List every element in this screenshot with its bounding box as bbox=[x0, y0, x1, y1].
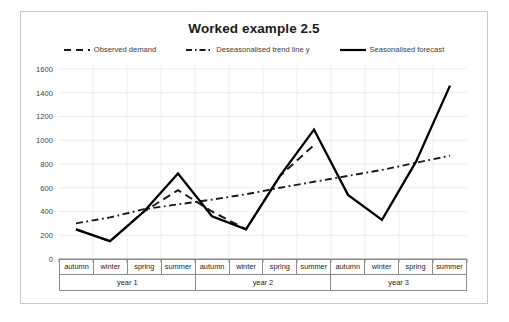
y-axis-tick-label: 200 bbox=[40, 231, 53, 240]
year-cell: year 1 bbox=[60, 275, 196, 291]
quarter-cell: spring bbox=[263, 260, 297, 275]
y-axis-tick-label: 800 bbox=[40, 160, 53, 169]
y-axis-tick-label: 0 bbox=[49, 255, 53, 264]
x-axis-category-table: autumnwinterspringsummerautumnwinterspri… bbox=[59, 259, 467, 291]
quarter-cell: spring bbox=[127, 260, 161, 275]
quarter-cell: summer bbox=[161, 260, 195, 275]
quarter-cell: summer bbox=[432, 260, 466, 275]
quarter-label-row: autumnwinterspringsummerautumnwinterspri… bbox=[60, 260, 467, 275]
quarter-cell: winter bbox=[229, 260, 263, 275]
year-cell: year 3 bbox=[331, 275, 467, 291]
chart-frame: Worked example 2.5 Observed demand Desea… bbox=[20, 11, 488, 304]
y-axis-tick-label: 1200 bbox=[36, 112, 53, 121]
quarter-cell: autumn bbox=[195, 260, 229, 275]
quarter-cell: summer bbox=[297, 260, 331, 275]
quarter-cell: autumn bbox=[60, 260, 94, 275]
y-axis-tick-label: 1400 bbox=[36, 89, 53, 98]
year-cell: year 2 bbox=[195, 275, 331, 291]
quarter-cell: winter bbox=[365, 260, 399, 275]
quarter-cell: winter bbox=[93, 260, 127, 275]
y-axis-tick-label: 600 bbox=[40, 184, 53, 193]
y-axis-tick-labels: 02004006008001000120014001600 bbox=[36, 65, 53, 264]
y-axis-tick-label: 1000 bbox=[36, 136, 53, 145]
y-axis-tick-label: 1600 bbox=[36, 65, 53, 74]
y-axis-tick-label: 400 bbox=[40, 207, 53, 216]
year-label-row: year 1year 2year 3 bbox=[60, 275, 467, 291]
quarter-cell: autumn bbox=[331, 260, 365, 275]
quarter-cell: spring bbox=[399, 260, 433, 275]
